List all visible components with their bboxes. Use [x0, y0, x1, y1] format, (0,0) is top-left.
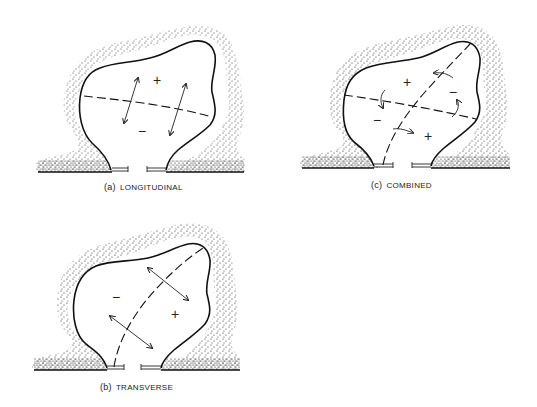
combined-diagram: + − − +: [270, 0, 537, 200]
ground-left: [302, 156, 380, 168]
sign-minus: −: [138, 123, 146, 139]
sign-minus: −: [373, 112, 381, 128]
sign-minus: −: [449, 84, 457, 100]
sign-plus: +: [424, 128, 432, 144]
caption-combined: (c)COMBINED: [371, 180, 432, 190]
ground-right: [432, 156, 510, 168]
panel-combined: + − − + (c)COMBINED: [270, 0, 537, 200]
longitudinal-diagram: + −: [0, 0, 270, 200]
caption-transverse: (b)TRANSVERSE: [100, 382, 173, 392]
sign-plus: +: [171, 306, 179, 322]
sign-minus: −: [112, 289, 120, 305]
ground-right: [166, 160, 244, 172]
panel-transverse: − + (b)TRANSVERSE: [0, 200, 270, 407]
panel-longitudinal: + − (a)LONGITUDINAL: [0, 0, 270, 200]
ground-left: [38, 160, 112, 172]
sign-plus: +: [153, 72, 161, 88]
ground-left: [34, 358, 108, 370]
transverse-diagram: − +: [0, 200, 270, 407]
caption-longitudinal: (a)LONGITUDINAL: [104, 182, 183, 192]
sign-plus: +: [403, 74, 411, 90]
ground-right: [162, 358, 240, 370]
